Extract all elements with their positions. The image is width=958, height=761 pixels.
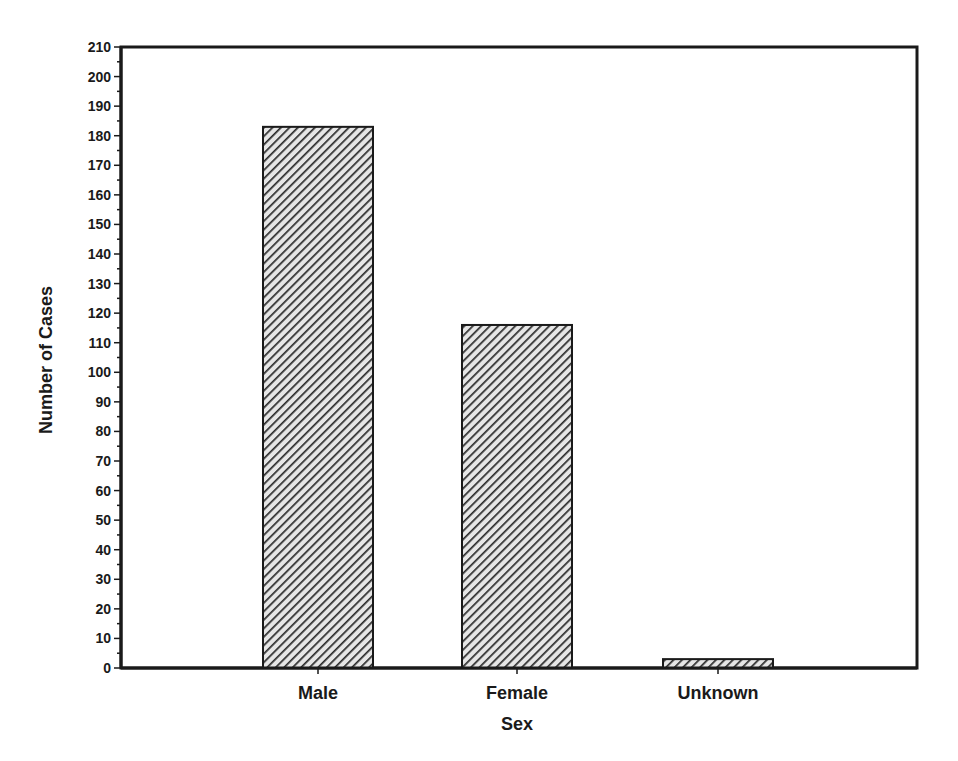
y-tick-label: 150 <box>88 216 112 232</box>
y-axis: 0102030405060708090100110120130140150160… <box>88 39 121 676</box>
x-tick-label-female: Female <box>486 683 548 703</box>
y-tick-label: 80 <box>95 423 111 439</box>
y-tick-label: 90 <box>95 394 111 410</box>
y-tick-label: 10 <box>95 630 111 646</box>
bar-male <box>263 127 373 668</box>
y-tick-label: 160 <box>88 187 112 203</box>
y-tick-label: 210 <box>88 39 112 55</box>
y-tick-label: 30 <box>95 571 111 587</box>
bar-chart: 0102030405060708090100110120130140150160… <box>0 0 958 761</box>
y-tick-label: 200 <box>88 69 112 85</box>
y-tick-label: 140 <box>88 246 112 262</box>
bars <box>263 127 773 668</box>
y-tick-label: 100 <box>88 364 112 380</box>
x-tick-label-unknown: Unknown <box>678 683 759 703</box>
y-tick-label: 130 <box>88 276 112 292</box>
y-tick-label: 170 <box>88 157 112 173</box>
y-tick-label: 40 <box>95 542 111 558</box>
y-tick-label: 190 <box>88 98 112 114</box>
y-tick-label: 20 <box>95 601 111 617</box>
x-tick-label-male: Male <box>298 683 338 703</box>
y-tick-label: 60 <box>95 483 111 499</box>
x-axis-title: Sex <box>501 714 533 734</box>
y-tick-label: 110 <box>88 335 111 351</box>
y-tick-label: 50 <box>95 512 111 528</box>
x-axis: MaleFemaleUnknown <box>298 668 759 703</box>
y-tick-label: 70 <box>95 453 111 469</box>
y-tick-label: 120 <box>88 305 112 321</box>
y-tick-label: 0 <box>103 660 111 676</box>
y-axis-title: Number of Cases <box>36 286 56 434</box>
y-tick-label: 180 <box>88 128 112 144</box>
bar-female <box>462 325 572 668</box>
